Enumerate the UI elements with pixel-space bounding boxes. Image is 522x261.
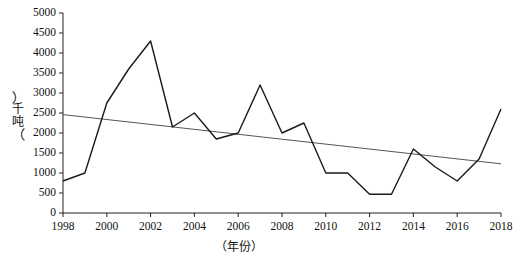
y-tick-label: 4500 bbox=[12, 27, 56, 39]
line-chart: 0500100015002000250030003500400045005000… bbox=[0, 0, 522, 261]
y-tick-label: 5000 bbox=[12, 7, 56, 19]
axis-lines bbox=[63, 13, 501, 213]
x-tick-label: 2018 bbox=[475, 221, 522, 233]
trend-line-series bbox=[63, 115, 501, 164]
y-axis-ticks bbox=[59, 13, 63, 213]
y-axis-title: ︵ 千 吨 ︶ bbox=[8, 92, 28, 140]
y-tick-label: 500 bbox=[12, 187, 56, 199]
y-tick-label: 4000 bbox=[12, 47, 56, 59]
data-line-series bbox=[63, 41, 501, 194]
y-tick-label: 0 bbox=[12, 207, 56, 219]
x-axis-title: （年份） bbox=[215, 237, 263, 255]
x-axis-ticks bbox=[63, 213, 501, 217]
y-tick-label: 3500 bbox=[12, 67, 56, 79]
y-title-open-paren: ︵ bbox=[13, 88, 24, 108]
y-tick-label: 1500 bbox=[12, 147, 56, 159]
y-title-close-paren: ︶ bbox=[13, 125, 24, 145]
y-tick-label: 1000 bbox=[12, 167, 56, 179]
